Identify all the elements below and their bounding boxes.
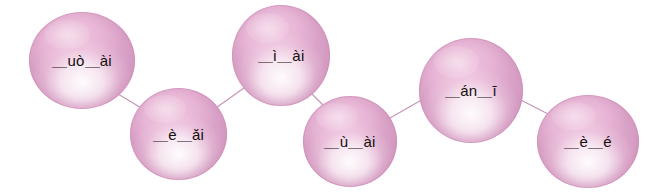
pinyin-blank-label: ＿án＿ī bbox=[445, 83, 497, 98]
pinyin-bubble[interactable]: ＿è＿é bbox=[537, 95, 639, 188]
pinyin-bubble[interactable]: ＿án＿ī bbox=[419, 38, 523, 143]
pinyin-bubble[interactable]: ＿uò＿ài bbox=[29, 12, 135, 109]
pinyin-bubble[interactable]: ＿è＿ǎi bbox=[130, 88, 227, 180]
pinyin-blank-label: ＿è＿ǎi bbox=[153, 127, 204, 142]
pinyin-blank-label: ＿uò＿ài bbox=[52, 53, 112, 68]
pinyin-bubble[interactable]: ＿ì＿ài bbox=[232, 5, 330, 106]
pinyin-blank-label: ＿ì＿ài bbox=[258, 48, 305, 63]
pinyin-bubble[interactable]: ＿ù＿ài bbox=[303, 96, 397, 187]
pinyin-blank-label: ＿è＿é bbox=[564, 134, 612, 149]
pinyin-blank-label: ＿ù＿ài bbox=[324, 134, 375, 149]
exercise-canvas: ＿uò＿ài＿è＿ǎi＿ì＿ài＿ù＿ài＿án＿ī＿è＿é bbox=[0, 0, 654, 196]
